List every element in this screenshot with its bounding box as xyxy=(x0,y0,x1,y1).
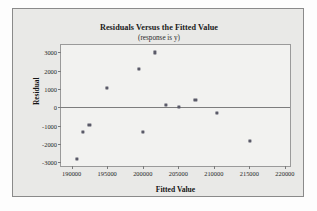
plot-inner: 3000200010000-1000-2000-3000190000195000… xyxy=(61,45,290,166)
data-point xyxy=(215,111,218,114)
y-axis-tick xyxy=(58,52,61,53)
y-axis-tick xyxy=(58,107,61,108)
data-point xyxy=(248,139,251,142)
x-axis-tick xyxy=(249,166,250,169)
y-axis-tick-label: -2000 xyxy=(42,141,57,148)
data-point xyxy=(153,51,156,54)
data-point xyxy=(106,86,109,89)
x-axis-tick-label: 210000 xyxy=(204,170,223,177)
x-axis-tick xyxy=(214,166,215,169)
y-axis-tick-label: 0 xyxy=(54,104,57,111)
y-axis-tick-label: -3000 xyxy=(42,159,57,166)
chart-subtitle: (response is y) xyxy=(13,34,305,42)
x-axis-tick-label: 205000 xyxy=(169,170,188,177)
x-axis-tick xyxy=(285,166,286,169)
chart-panel: Residuals Versus the Fitted Value (respo… xyxy=(12,8,304,197)
data-point xyxy=(194,98,197,101)
x-axis-tick-label: 200000 xyxy=(133,170,152,177)
x-axis-tick-label: 220000 xyxy=(275,170,294,177)
chart-title: Residuals Versus the Fitted Value xyxy=(13,23,305,32)
x-axis-tick xyxy=(107,166,108,169)
y-axis-tick xyxy=(58,144,61,145)
y-axis-tick-label: 1000 xyxy=(44,86,57,93)
x-axis-tick xyxy=(143,166,144,169)
x-axis-tick-label: 215000 xyxy=(240,170,259,177)
y-axis-tick-label: 3000 xyxy=(44,49,57,56)
data-point xyxy=(88,123,91,126)
y-axis-tick-label: 2000 xyxy=(44,67,57,74)
data-point xyxy=(165,103,168,106)
zero-reference-line xyxy=(61,107,290,108)
x-axis-tick-label: 190000 xyxy=(62,170,81,177)
data-point xyxy=(138,67,141,70)
y-axis-tick xyxy=(58,162,61,163)
x-axis-tick xyxy=(72,166,73,169)
x-axis-tick xyxy=(178,166,179,169)
chart-page: Residuals Versus the Fitted Value (respo… xyxy=(0,0,317,211)
data-point xyxy=(141,131,144,134)
y-axis-title: Residual xyxy=(32,77,41,105)
x-axis-tick-label: 195000 xyxy=(98,170,117,177)
data-point xyxy=(81,131,84,134)
y-axis-tick xyxy=(58,126,61,127)
y-axis-tick-label: -1000 xyxy=(42,122,57,129)
x-axis-title: Fitted Value xyxy=(60,185,291,194)
data-point xyxy=(177,105,180,108)
plot-area: 3000200010000-1000-2000-3000190000195000… xyxy=(60,44,291,167)
y-axis-tick xyxy=(58,71,61,72)
y-axis-tick xyxy=(58,89,61,90)
data-point xyxy=(75,157,78,160)
